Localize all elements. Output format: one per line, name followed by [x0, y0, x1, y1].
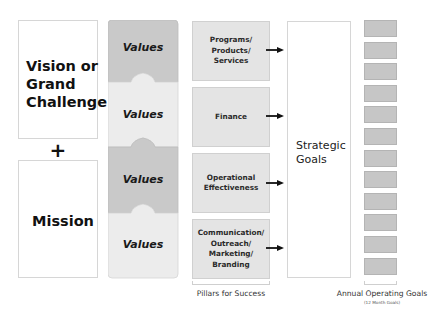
pillars-bracket — [192, 281, 270, 285]
pillar-label-programs: Programs/ Products/ Services — [210, 35, 252, 67]
arrow-right-icon — [266, 113, 284, 119]
mission-box: Mission — [18, 160, 98, 278]
pillar-communication: Communication/ Outreach/ Marketing/ Bran… — [192, 219, 270, 279]
pillars-caption: Pillars for Success — [182, 289, 280, 298]
vision-box: Vision or Grand Challenge — [18, 20, 98, 139]
annual-goal-box — [364, 85, 397, 102]
annual-goal-box — [364, 171, 397, 188]
annual-goal-box — [364, 193, 397, 210]
annual-goal-box — [364, 258, 397, 275]
annual-goals-bracket — [364, 281, 397, 285]
pillar-label-operational: Operational Effectiveness — [204, 173, 259, 194]
arrow-right-icon — [266, 245, 284, 251]
annual-goal-box — [364, 42, 397, 59]
strategic-goals-label: Strategic Goals — [296, 139, 346, 167]
pillar-label-finance: Finance — [215, 112, 247, 123]
pillar-programs: Programs/ Products/ Services — [192, 21, 270, 81]
strategic-goals-box: Strategic Goals — [287, 21, 351, 278]
annual-goal-box — [364, 63, 397, 80]
annual-goal-box — [364, 128, 397, 145]
plus-symbol: + — [48, 138, 68, 162]
annual-goals-column — [364, 20, 397, 279]
pillar-operational: Operational Effectiveness — [192, 153, 270, 213]
values-label-3: Values — [108, 173, 178, 186]
annual-goals-caption: Annual Operating Goals — [330, 289, 434, 298]
values-label-1: Values — [108, 41, 178, 54]
mission-label: Mission — [32, 212, 94, 230]
arrow-right-icon — [266, 180, 284, 186]
annual-goal-box — [364, 214, 397, 231]
pillar-label-communication: Communication/ Outreach/ Marketing/ Bran… — [198, 228, 265, 270]
pillar-finance: Finance — [192, 87, 270, 147]
annual-goals-subcaption: (12 Month Goals) — [350, 300, 414, 305]
annual-goal-box — [364, 20, 397, 37]
arrow-right-icon — [266, 47, 284, 53]
values-label-4: Values — [108, 238, 178, 251]
vision-label: Vision or Grand Challenge — [26, 57, 107, 111]
annual-goal-box — [364, 106, 397, 123]
annual-goal-box — [364, 150, 397, 167]
values-label-2: Values — [108, 108, 178, 121]
annual-goal-box — [364, 236, 397, 253]
